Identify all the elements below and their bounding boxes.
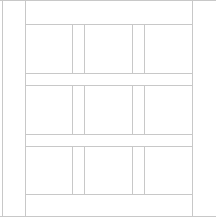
right-border [192, 0, 193, 217]
col-2-right-line-row-1 [132, 24, 133, 74]
top-border [0, 0, 216, 1]
left-border [2, 0, 3, 217]
grid-cell-1-2[interactable] [85, 25, 132, 73]
grid-cell-3-2[interactable] [85, 147, 132, 194]
col-1-right-line-row-3 [72, 146, 73, 195]
col-2-right-line-row-3 [132, 146, 133, 195]
grid-cell-2-2[interactable] [85, 86, 132, 134]
row-1-bottom-line [25, 73, 193, 74]
row-2-bottom-line [25, 134, 193, 135]
grid-cell-3-3[interactable] [145, 147, 192, 194]
grid-cell-1-1[interactable] [26, 25, 72, 73]
bottom-border [0, 216, 216, 217]
grid-cell-3-1[interactable] [26, 147, 72, 194]
col-2-right-line-row-2 [132, 85, 133, 135]
grid-cell-1-3[interactable] [145, 25, 192, 73]
col-1-right-line-row-2 [72, 85, 73, 135]
grid-cell-2-3[interactable] [145, 86, 192, 134]
wireframe-canvas [0, 0, 216, 224]
col-1-right-line-row-1 [72, 24, 73, 74]
row-3-bottom-line [25, 194, 193, 195]
grid-cell-2-1[interactable] [26, 86, 72, 134]
